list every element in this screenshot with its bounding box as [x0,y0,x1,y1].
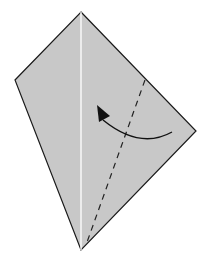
kite-paper-shape [15,12,196,250]
origami-diagram [0,0,208,258]
